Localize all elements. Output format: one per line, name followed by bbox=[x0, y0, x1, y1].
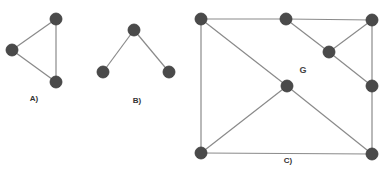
edge-c-11 bbox=[201, 153, 372, 154]
graph-canvas bbox=[0, 0, 386, 174]
edge-a-0 bbox=[12, 19, 56, 50]
caption-b: B) bbox=[133, 96, 141, 105]
node-c-2 bbox=[366, 14, 378, 26]
edge-c-4 bbox=[329, 52, 372, 86]
edge-a-1 bbox=[12, 50, 56, 82]
node-c-5 bbox=[281, 80, 293, 92]
caption-a: A) bbox=[30, 94, 38, 103]
nodes-layer bbox=[6, 13, 378, 160]
node-a-2 bbox=[50, 76, 62, 88]
edge-c-1 bbox=[286, 19, 372, 20]
edge-c-9 bbox=[201, 86, 287, 153]
edge-c-2 bbox=[286, 19, 329, 52]
node-a-1 bbox=[6, 44, 18, 56]
node-c-7 bbox=[366, 148, 378, 160]
graph-name-g: G bbox=[299, 65, 306, 75]
node-c-3 bbox=[323, 46, 335, 58]
node-b-2 bbox=[163, 66, 175, 78]
node-c-4 bbox=[366, 80, 378, 92]
caption-c: C) bbox=[284, 156, 292, 165]
edge-c-3 bbox=[329, 20, 372, 52]
node-b-0 bbox=[128, 24, 140, 36]
edge-c-10 bbox=[287, 86, 372, 154]
edge-b-1 bbox=[134, 30, 169, 72]
node-c-6 bbox=[195, 147, 207, 159]
node-b-1 bbox=[97, 66, 109, 78]
node-a-0 bbox=[50, 13, 62, 25]
node-c-1 bbox=[280, 13, 292, 25]
node-c-0 bbox=[195, 13, 207, 25]
edges-layer bbox=[12, 19, 372, 154]
edge-c-8 bbox=[201, 19, 287, 86]
edge-b-0 bbox=[103, 30, 134, 72]
